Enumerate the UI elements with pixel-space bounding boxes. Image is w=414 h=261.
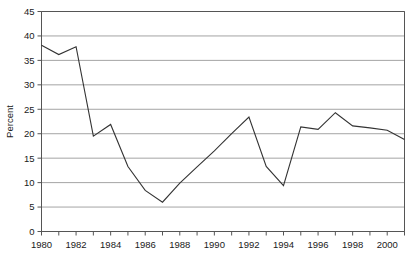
chart-canvas: 051015202530354045 198019821984198619881…	[0, 0, 414, 261]
x-tick-label-1998: 1998	[342, 239, 363, 250]
y-tick-label-0: 0	[29, 226, 34, 237]
x-tick-label-1992: 1992	[238, 239, 259, 250]
chart-background	[0, 0, 414, 261]
y-axis-title-text: Percent	[4, 105, 15, 138]
y-tick-label-10: 10	[24, 177, 35, 188]
y-tick-label-40: 40	[24, 30, 35, 41]
y-tick-label-45: 45	[24, 6, 35, 17]
x-tick-label-1986: 1986	[135, 239, 156, 250]
x-tick-label-1980: 1980	[31, 239, 52, 250]
x-tick-label-1982: 1982	[66, 239, 87, 250]
y-tick-label-30: 30	[24, 79, 35, 90]
x-tick-label-1984: 1984	[100, 239, 121, 250]
y-tick-label-35: 35	[24, 55, 35, 66]
y-tick-label-20: 20	[24, 128, 35, 139]
x-tick-label-2000: 2000	[377, 239, 398, 250]
x-axis-tick-labels: 1980198219841986198819901992199419961998…	[31, 239, 398, 250]
y-tick-label-15: 15	[24, 153, 35, 164]
y-tick-label-25: 25	[24, 104, 35, 115]
x-tick-label-1990: 1990	[204, 239, 225, 250]
line-chart: 051015202530354045 198019821984198619881…	[0, 0, 414, 261]
y-axis-title: Percent	[4, 105, 15, 138]
x-tick-label-1996: 1996	[308, 239, 329, 250]
x-tick-label-1994: 1994	[273, 239, 294, 250]
y-tick-label-5: 5	[29, 201, 34, 212]
x-tick-label-1988: 1988	[169, 239, 190, 250]
